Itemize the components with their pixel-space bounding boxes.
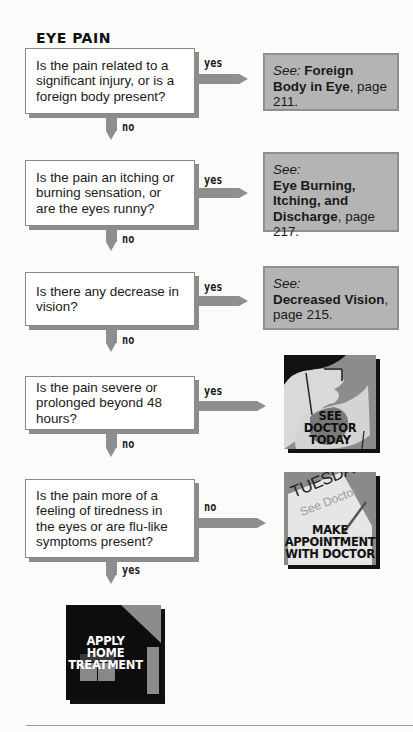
yes-arrow-shaft bbox=[199, 188, 239, 198]
no-arrow-shaft bbox=[106, 230, 117, 242]
yes-arrow-shaft bbox=[199, 401, 257, 411]
outcome-line: TREATMENT bbox=[66, 659, 153, 671]
yes-arrow-shaft bbox=[199, 296, 239, 306]
yes-label: yes bbox=[204, 173, 222, 187]
question-box-severe: Is the pain severe or prolonged beyond 4… bbox=[25, 376, 195, 430]
reference-topic: Decreased Vision bbox=[273, 292, 384, 307]
question-text: Is there any decrease in vision? bbox=[36, 284, 184, 315]
arrow-right-icon bbox=[239, 188, 248, 198]
no-label: no bbox=[122, 437, 134, 451]
arrow-right-icon bbox=[239, 74, 248, 84]
yes-arrow-shaft bbox=[199, 74, 239, 84]
question-text: Is the pain an itching or burning sensat… bbox=[36, 170, 184, 217]
arrow-down-icon bbox=[106, 242, 116, 251]
reference-box-decreased-vision: See:Decreased Vision, page 215. bbox=[263, 266, 399, 330]
yes-arrow-shaft bbox=[106, 562, 117, 575]
yes-label: yes bbox=[204, 384, 222, 398]
no-label: no bbox=[204, 500, 216, 514]
arrow-right-icon bbox=[239, 296, 248, 306]
see-label: See: bbox=[273, 63, 301, 78]
arrow-down-icon bbox=[106, 575, 116, 584]
question-box-injury: Is the pain related to a significant inj… bbox=[25, 48, 195, 114]
outcome-line: WITH DOCTOR bbox=[284, 548, 376, 560]
arrow-right-icon bbox=[257, 401, 266, 411]
no-arrow-shaft bbox=[199, 518, 257, 528]
question-text: Is the pain more of a feeling of tiredne… bbox=[36, 488, 184, 550]
see-label: See: bbox=[273, 276, 389, 292]
arrow-down-icon bbox=[106, 448, 116, 457]
question-text: Is the pain severe or prolonged beyond 4… bbox=[36, 380, 184, 427]
outcome-text: APPLY HOME TREATMENT bbox=[66, 635, 153, 671]
outcome-line: TODAY bbox=[284, 434, 376, 446]
bottom-divider bbox=[26, 725, 413, 726]
question-box-itching: Is the pain an itching or burning sensat… bbox=[25, 160, 195, 226]
no-arrow-shaft bbox=[106, 434, 117, 448]
question-text: Is the pain related to a significant inj… bbox=[36, 58, 184, 105]
no-label: no bbox=[122, 120, 134, 134]
yes-label: yes bbox=[204, 280, 222, 294]
no-arrow-shaft bbox=[106, 330, 117, 343]
yes-label: yes bbox=[204, 56, 222, 70]
make-appointment-image: TUESDAY See Doctor MAKE APPOINTMENT WITH… bbox=[284, 472, 376, 565]
outcome-text: MAKE APPOINTMENT WITH DOCTOR bbox=[284, 524, 376, 560]
reference-box-eye-burning: See:Eye Burning, Itching, and Discharge,… bbox=[263, 152, 399, 232]
reference-box-foreign-body: See: Foreign Body in Eye, page 211. bbox=[263, 53, 399, 111]
apply-home-treatment-image: APPLY HOME TREATMENT bbox=[66, 605, 161, 700]
outcome-text: SEE DOCTOR TODAY bbox=[284, 410, 376, 446]
no-label: no bbox=[122, 333, 134, 347]
see-doctor-today-image: SEE DOCTOR TODAY bbox=[284, 355, 376, 449]
question-box-tiredness: Is the pain more of a feeling of tiredne… bbox=[25, 479, 195, 558]
see-label: See: bbox=[273, 162, 389, 178]
no-arrow-shaft bbox=[106, 118, 117, 131]
no-label: no bbox=[122, 232, 134, 246]
question-box-vision: Is there any decrease in vision? bbox=[25, 272, 195, 326]
yes-label: yes bbox=[122, 563, 140, 577]
arrow-right-icon bbox=[257, 518, 266, 528]
arrow-down-icon bbox=[106, 343, 116, 352]
page-title: EYE PAIN bbox=[36, 30, 111, 46]
arrow-down-icon bbox=[106, 131, 116, 140]
